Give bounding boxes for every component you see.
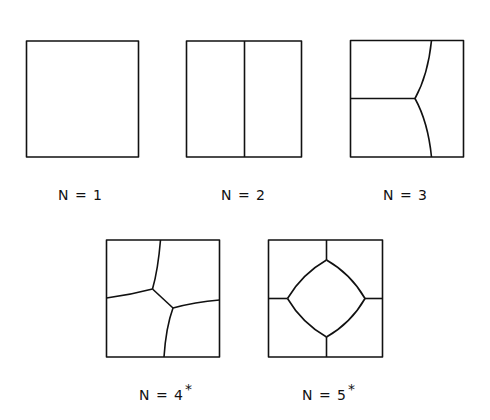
panel-n4-square <box>107 240 220 357</box>
asterisk-icon: * <box>185 381 193 397</box>
panel-n3-square <box>351 41 464 158</box>
panel-n2-label: N = 2 <box>221 181 267 203</box>
panel-n4-label: N = 4* <box>139 381 193 403</box>
panel-n5-label: N = 5* <box>302 381 356 403</box>
panel-n3-label: N = 3 <box>383 181 429 203</box>
panel-n1-square <box>27 41 139 157</box>
panel-n5-square <box>269 240 383 357</box>
partition-diagram <box>0 0 490 420</box>
asterisk-icon: * <box>348 381 356 397</box>
panel-n2-square <box>187 41 302 157</box>
panel-n1-label: N = 1 <box>58 181 104 203</box>
